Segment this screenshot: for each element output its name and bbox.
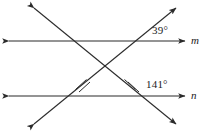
tick-marks-left-transversal [76, 80, 91, 93]
geometry-diagram-svg [0, 0, 211, 131]
angle-label-39: 39° [152, 25, 168, 36]
line-label-n: n [191, 90, 197, 101]
angle-label-141: 141° [146, 79, 168, 90]
tick-marks-right-transversal [125, 80, 140, 93]
geometry-figure: 39° 141° m n [0, 0, 211, 131]
line-label-m: m [191, 35, 199, 46]
